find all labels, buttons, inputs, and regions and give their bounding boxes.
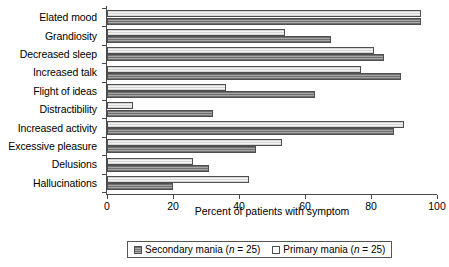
y-axis-tick xyxy=(102,100,107,101)
legend-entry: Secondary mania (n = 25) xyxy=(134,244,260,255)
y-axis-label: Increased talk xyxy=(33,66,97,78)
y-axis-tick xyxy=(102,82,107,83)
y-axis-label: Delusions xyxy=(52,158,97,170)
bar-secondary-mania xyxy=(107,36,331,43)
bar-secondary-mania xyxy=(107,91,315,98)
y-axis-tick xyxy=(102,174,107,175)
x-axis-tick xyxy=(371,195,372,199)
bar-primary-mania xyxy=(107,10,421,17)
bar-primary-mania xyxy=(107,139,282,146)
y-axis-tick xyxy=(102,8,107,9)
x-axis-tick xyxy=(437,195,438,199)
x-axis-tick xyxy=(305,195,306,199)
chart-legend: Secondary mania (n = 25)Primary mania (n… xyxy=(127,241,392,258)
y-axis-tick xyxy=(102,63,107,64)
bar-secondary-mania xyxy=(107,18,421,25)
legend-swatch-primary xyxy=(272,246,280,254)
bar-secondary-mania xyxy=(107,54,384,61)
y-axis-label: Distractibility xyxy=(40,103,97,115)
y-axis-label: Flight of ideas xyxy=(33,85,97,97)
legend-label: Primary mania (n = 25) xyxy=(283,244,385,255)
y-axis-category-labels: Elated moodGrandiosityDecreased sleepInc… xyxy=(0,8,101,192)
legend-swatch-secondary xyxy=(134,246,142,254)
y-axis-label: Increased activity xyxy=(18,122,97,134)
bar-primary-mania xyxy=(107,66,361,73)
bar-primary-mania xyxy=(107,84,226,91)
bar-primary-mania xyxy=(107,47,374,54)
y-axis-tick xyxy=(102,118,107,119)
bar-secondary-mania xyxy=(107,183,173,190)
bar-primary-mania xyxy=(107,29,285,36)
bar-secondary-mania xyxy=(107,110,213,117)
x-axis-tick xyxy=(107,195,108,199)
y-axis-label: Decreased sleep xyxy=(20,48,97,60)
x-axis-title: Percent of patients with symptom xyxy=(107,205,437,217)
bar-primary-mania xyxy=(107,176,249,183)
y-axis-tick xyxy=(102,137,107,138)
x-axis-tick xyxy=(239,195,240,199)
horizontal-bar-chart: Elated moodGrandiosityDecreased sleepInc… xyxy=(0,0,449,267)
y-axis-label: Excessive pleasure xyxy=(8,140,97,152)
bar-primary-mania xyxy=(107,121,404,128)
legend-label: Secondary mania (n = 25) xyxy=(145,244,260,255)
bar-secondary-mania xyxy=(107,146,256,153)
legend-entry: Primary mania (n = 25) xyxy=(272,244,385,255)
y-axis-label: Grandiosity xyxy=(45,30,97,42)
x-axis-tick xyxy=(173,195,174,199)
y-axis-tick xyxy=(102,45,107,46)
bar-secondary-mania xyxy=(107,73,401,80)
x-axis-line xyxy=(106,194,437,195)
bar-secondary-mania xyxy=(107,128,394,135)
bar-primary-mania xyxy=(107,102,133,109)
y-axis-tick xyxy=(102,155,107,156)
bar-secondary-mania xyxy=(107,165,209,172)
bar-primary-mania xyxy=(107,158,193,165)
y-axis-label: Elated mood xyxy=(39,11,97,23)
y-axis-tick xyxy=(102,26,107,27)
y-axis-tick xyxy=(102,192,107,193)
plot-area: 020406080100 xyxy=(107,8,437,192)
y-axis-label: Hallucinations xyxy=(33,177,97,189)
